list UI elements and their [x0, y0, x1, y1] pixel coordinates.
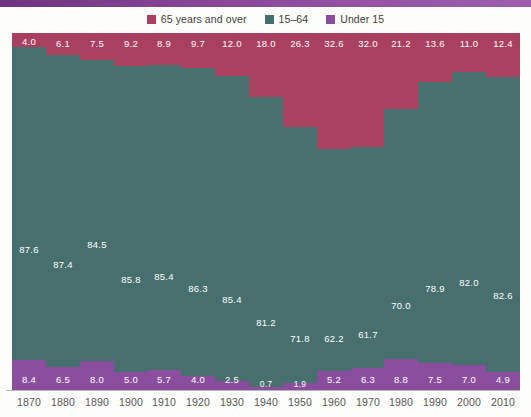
bar-group-2010[interactable]: 12.482.64.9 [486, 33, 520, 390]
bar-group-1930[interactable]: 12.085.42.5 [215, 33, 249, 390]
bar-value-label-65-over-1940: 18.0 [256, 39, 275, 49]
legend-item-0[interactable]: 65 years and over [147, 13, 247, 25]
bar-segment-15-64-2000[interactable]: 82.0 [452, 72, 486, 365]
bar-segment-65-over-1920[interactable]: 9.7 [181, 33, 215, 68]
bar-segment-65-over-1990[interactable]: 13.6 [418, 33, 452, 82]
chart-page: 65 years and over15–64Under 15 4.087.68.… [0, 0, 531, 417]
bar-segment-under-15-2010[interactable]: 4.9 [486, 372, 520, 389]
bar-value-label-under-15-1990: 7.5 [428, 375, 442, 385]
x-tick-1970: 1970 [351, 396, 385, 408]
bar-segment-15-64-1890[interactable]: 84.5 [80, 60, 114, 362]
bar-segment-65-over-2000[interactable]: 11.0 [452, 33, 486, 72]
bar-segment-under-15-1980[interactable]: 8.8 [384, 359, 418, 390]
bar-group-1970[interactable]: 32.061.76.3 [351, 33, 385, 390]
bar-segment-65-over-2010[interactable]: 12.4 [486, 33, 520, 77]
x-tick-1990: 1990 [418, 396, 452, 408]
bar-segment-15-64-1940[interactable]: 81.2 [249, 97, 283, 387]
bar-segment-under-15-1870[interactable]: 8.4 [12, 360, 46, 390]
bar-group-1920[interactable]: 9.786.34.0 [181, 33, 215, 390]
bar-value-label-65-over-1890: 7.5 [90, 39, 104, 49]
bar-segment-under-15-1950[interactable]: 1.9 [283, 383, 317, 390]
legend-swatch-15-64 [265, 15, 274, 24]
bar-segment-15-64-1870[interactable]: 87.6 [12, 47, 46, 360]
x-tick-1900: 1900 [114, 396, 148, 408]
bar-segment-under-15-2000[interactable]: 7.0 [452, 365, 486, 390]
bar-segment-15-64-1960[interactable]: 62.2 [317, 149, 351, 371]
x-tick-1910: 1910 [147, 396, 181, 408]
bar-value-label-15-64-1960: 62.2 [324, 334, 343, 344]
bar-segment-65-over-1880[interactable]: 6.1 [46, 33, 80, 55]
bar-segment-15-64-1930[interactable]: 85.4 [215, 76, 249, 381]
bar-segment-15-64-1950[interactable]: 71.8 [283, 127, 317, 383]
bar-value-label-65-over-2000: 11.0 [460, 39, 479, 49]
legend-label-1: 15–64 [279, 13, 309, 25]
bar-segment-65-over-1950[interactable]: 26.3 [283, 33, 317, 127]
bar-value-label-65-over-1990: 13.6 [425, 39, 444, 49]
bar-segment-65-over-1980[interactable]: 21.2 [384, 33, 418, 109]
bar-segment-65-over-1900[interactable]: 9.2 [114, 33, 148, 66]
bar-segment-15-64-1900[interactable]: 85.8 [114, 66, 148, 372]
bar-segment-65-over-1870[interactable]: 4.0 [12, 33, 46, 47]
bar-value-label-15-64-1950: 71.8 [290, 334, 309, 344]
bar-group-1900[interactable]: 9.285.85.0 [114, 33, 148, 390]
bar-group-1990[interactable]: 13.678.97.5 [418, 33, 452, 390]
bar-value-label-under-15-1920: 4.0 [191, 375, 205, 385]
bar-segment-65-over-1890[interactable]: 7.5 [80, 33, 114, 60]
bar-segment-under-15-1890[interactable]: 8.0 [80, 361, 114, 390]
x-tick-1940: 1940 [249, 396, 283, 408]
bar-segment-15-64-1920[interactable]: 86.3 [181, 68, 215, 376]
bar-segment-65-over-1940[interactable]: 18.0 [249, 33, 283, 97]
bar-segment-under-15-1990[interactable]: 7.5 [418, 363, 452, 390]
bar-value-label-under-15-1900: 5.0 [124, 375, 138, 385]
x-tick-1950: 1950 [283, 396, 317, 408]
bar-group-1910[interactable]: 8.985.45.7 [147, 33, 181, 390]
bar-segment-15-64-1910[interactable]: 85.4 [147, 65, 181, 370]
bar-value-label-15-64-1920: 86.3 [188, 284, 207, 294]
bar-group-1870[interactable]: 4.087.68.4 [12, 33, 46, 390]
bar-value-label-65-over-1920: 9.7 [191, 39, 205, 49]
bar-value-label-65-over-1950: 26.3 [290, 39, 309, 49]
x-tick-1980: 1980 [384, 396, 418, 408]
bar-segment-65-over-1910[interactable]: 8.9 [147, 33, 181, 65]
bar-segment-under-15-1900[interactable]: 5.0 [114, 372, 148, 390]
bar-segment-15-64-1990[interactable]: 78.9 [418, 82, 452, 364]
bar-segment-15-64-1970[interactable]: 61.7 [351, 147, 385, 367]
bar-group-1880[interactable]: 6.187.46.5 [46, 33, 80, 390]
bar-group-1890[interactable]: 7.584.58.0 [80, 33, 114, 390]
legend-swatch-65-over [147, 15, 156, 24]
bar-value-label-15-64-2000: 82.0 [459, 278, 478, 288]
top-decorative-band [0, 0, 531, 7]
x-tick-1960: 1960 [317, 396, 351, 408]
bar-segment-65-over-1970[interactable]: 32.0 [351, 33, 385, 147]
bar-group-1940[interactable]: 18.081.20.7 [249, 33, 283, 390]
bar-segment-15-64-1980[interactable]: 70.0 [384, 109, 418, 359]
bar-segment-65-over-1960[interactable]: 32.6 [317, 33, 351, 149]
bar-group-1960[interactable]: 32.662.25.2 [317, 33, 351, 390]
bar-segment-under-15-1960[interactable]: 5.2 [317, 371, 351, 390]
bar-value-label-15-64-1870: 87.6 [19, 245, 38, 255]
bar-segment-65-over-1930[interactable]: 12.0 [215, 33, 249, 76]
bar-value-label-65-over-1900: 9.2 [124, 39, 138, 49]
bar-segment-under-15-1910[interactable]: 5.7 [147, 370, 181, 390]
bar-value-label-15-64-1910: 85.4 [154, 272, 173, 282]
bar-value-label-under-15-1930: 2.5 [225, 375, 239, 385]
bar-group-2000[interactable]: 11.082.07.0 [452, 33, 486, 390]
bar-group-1980[interactable]: 21.270.08.8 [384, 33, 418, 390]
bar-segment-under-15-1920[interactable]: 4.0 [181, 376, 215, 390]
bar-segment-15-64-2010[interactable]: 82.6 [486, 77, 520, 372]
legend-label-2: Under 15 [340, 13, 384, 25]
bar-value-label-65-over-1970: 32.0 [358, 39, 377, 49]
bar-value-label-under-15-1880: 6.5 [56, 375, 70, 385]
bar-group-1950[interactable]: 26.371.81.9 [283, 33, 317, 390]
legend-swatch-under-15 [326, 15, 335, 24]
bar-segment-under-15-1930[interactable]: 2.5 [215, 381, 249, 390]
bar-segment-15-64-1880[interactable]: 87.4 [46, 55, 80, 367]
bar-segment-under-15-1880[interactable]: 6.5 [46, 367, 80, 390]
x-axis-tick-labels: 1870188018901900191019201930194019501960… [12, 396, 520, 414]
legend-item-2[interactable]: Under 15 [326, 13, 384, 25]
legend-item-1[interactable]: 15–64 [265, 13, 309, 25]
bar-value-label-under-15-1910: 5.7 [157, 375, 171, 385]
bar-segment-under-15-1970[interactable]: 6.3 [351, 368, 385, 390]
bar-value-label-under-15-2010: 4.9 [496, 375, 510, 385]
x-tick-1890: 1890 [80, 396, 114, 408]
